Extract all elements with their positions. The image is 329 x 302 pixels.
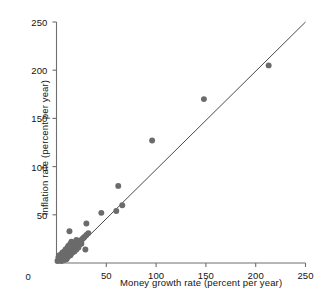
data-point	[115, 183, 121, 189]
trendline	[61, 22, 305, 263]
data-point	[119, 202, 125, 208]
data-point	[98, 210, 104, 216]
data-point	[266, 62, 272, 68]
axes-group	[53, 22, 306, 267]
data-point	[85, 230, 91, 236]
y-tick-label: 250	[0, 17, 48, 28]
y-tick-label: 0	[0, 271, 59, 282]
data-point	[66, 228, 72, 234]
x-axis-title: Money growth rate (percent per year)	[120, 277, 282, 288]
data-point	[201, 96, 207, 102]
reference-line	[61, 22, 305, 263]
y-axis-title: Inflation rate (percent per year)	[39, 48, 50, 248]
data-point	[83, 221, 89, 227]
data-point	[149, 138, 155, 144]
data-point	[113, 208, 119, 214]
figure-container: 050100150200250 50100150200250 Inflation…	[0, 0, 329, 302]
x-tick-label: 50	[101, 270, 112, 281]
x-tick-label: 250	[297, 270, 313, 281]
data-point	[82, 247, 88, 253]
